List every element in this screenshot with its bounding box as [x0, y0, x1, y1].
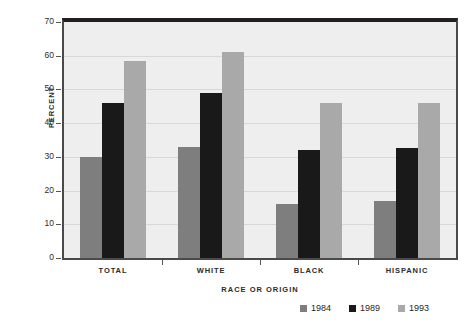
category-label-black: BLACK — [259, 266, 359, 275]
y-tick-label: 50 — [28, 84, 54, 93]
x-tick-mark — [358, 260, 359, 265]
y-tick-label: 0 — [28, 253, 54, 262]
x-tick-mark — [260, 260, 261, 265]
legend-label-1989: 1989 — [360, 303, 380, 313]
legend-item-1993: 1993 — [398, 303, 429, 313]
category-label-total: TOTAL — [63, 266, 163, 275]
y-tick-label: 20 — [28, 186, 54, 195]
x-axis-title: RACE OR ORIGIN — [62, 285, 458, 294]
bar-chart: PERCENT 010203040506070 TOTALWHITEBLACKH… — [0, 0, 471, 322]
chart-legend: 1984 1989 1993 — [300, 303, 429, 313]
legend-item-1989: 1989 — [349, 303, 380, 313]
legend-swatch-icon-1993 — [398, 305, 405, 312]
y-tick-label: 10 — [28, 219, 54, 228]
y-tick-mark — [56, 56, 61, 57]
y-tick-mark — [56, 89, 61, 90]
y-tick-mark — [56, 157, 61, 158]
y-tick-mark — [56, 224, 61, 225]
y-tick-mark — [56, 191, 61, 192]
category-label-hispanic: HISPANIC — [357, 266, 457, 275]
y-tick-mark — [56, 22, 61, 23]
category-label-white: WHITE — [161, 266, 261, 275]
x-tick-mark — [162, 260, 163, 265]
y-tick-mark — [56, 258, 61, 259]
y-tick-label: 60 — [28, 51, 54, 60]
y-tick-label: 70 — [28, 17, 54, 26]
legend-label-1993: 1993 — [409, 303, 429, 313]
legend-swatch-icon-1984 — [300, 305, 307, 312]
y-tick-label: 30 — [28, 152, 54, 161]
y-tick-label: 40 — [28, 118, 54, 127]
legend-label-1984: 1984 — [311, 303, 331, 313]
y-tick-mark — [56, 123, 61, 124]
legend-swatch-icon-1989 — [349, 305, 356, 312]
legend-item-1984: 1984 — [300, 303, 331, 313]
